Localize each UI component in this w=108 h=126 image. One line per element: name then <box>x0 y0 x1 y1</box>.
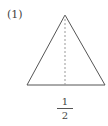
fraction-denominator: 2 <box>57 110 73 121</box>
fraction-numerator: 1 <box>57 96 73 107</box>
triangle-outline <box>27 15 105 85</box>
fraction-one-half: 1 2 <box>57 96 73 121</box>
triangle-figure <box>0 0 108 126</box>
fraction-bar <box>57 108 73 109</box>
